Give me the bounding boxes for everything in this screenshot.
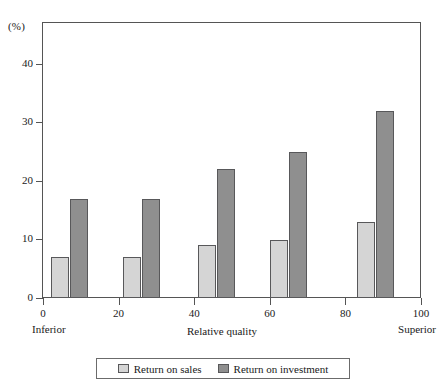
plot-area — [43, 23, 421, 298]
bar-sales-2 — [198, 245, 216, 298]
bar-investment-3 — [289, 152, 307, 298]
x-axis-tick-label-100: 100 — [401, 307, 441, 319]
bar-sales-3 — [270, 240, 288, 299]
x-axis-tick-label-80: 80 — [325, 307, 365, 319]
y-axis-tick-label-30: 30 — [3, 116, 33, 127]
y-axis-tick-20 — [36, 181, 43, 182]
x-axis-tick-label-0: 0 — [23, 307, 63, 319]
legend-label-sales: Return on sales — [134, 363, 202, 375]
y-axis-unit-label: (%) — [8, 20, 25, 32]
bar-sales-0 — [51, 257, 69, 298]
x-axis-tick-100 — [421, 298, 422, 305]
y-axis-tick-label-40: 40 — [3, 58, 33, 69]
x-axis-tick-80 — [345, 298, 346, 305]
y-axis-tick-label-20: 20 — [3, 175, 33, 186]
y-axis-tick-0 — [36, 298, 43, 299]
x-axis-tick-40 — [194, 298, 195, 305]
bar-investment-1 — [142, 199, 160, 298]
legend-entry-sales: Return on sales — [118, 363, 202, 375]
x-axis-tick-label-20: 20 — [99, 307, 139, 319]
y-axis-tick-label-0: 0 — [3, 292, 33, 303]
chart-legend: Return on sales Return on investment — [96, 358, 350, 379]
x-axis-tick-60 — [270, 298, 271, 305]
legend-label-investment: Return on investment — [234, 363, 329, 375]
y-axis-tick-40 — [36, 64, 43, 65]
bar-investment-2 — [217, 169, 235, 298]
bar-chart-figure: (%) 010203040 020406080100 Inferior Supe… — [0, 0, 444, 387]
bar-investment-4 — [376, 111, 394, 298]
y-axis-tick-label-10: 10 — [3, 233, 33, 244]
legend-swatch-sales-icon — [118, 364, 129, 373]
legend-swatch-investment-icon — [218, 364, 229, 373]
y-axis-tick-10 — [36, 239, 43, 240]
y-axis-tick-30 — [36, 122, 43, 123]
x-axis-tick-label-60: 60 — [250, 307, 290, 319]
legend-entry-investment: Return on investment — [218, 363, 329, 375]
x-axis-title: Relative quality — [0, 325, 444, 337]
bar-sales-4 — [357, 222, 375, 298]
bar-investment-0 — [70, 199, 88, 298]
x-axis-tick-20 — [119, 298, 120, 305]
bar-sales-1 — [123, 257, 141, 298]
x-axis-tick-label-40: 40 — [174, 307, 214, 319]
x-axis-tick-0 — [43, 298, 44, 305]
